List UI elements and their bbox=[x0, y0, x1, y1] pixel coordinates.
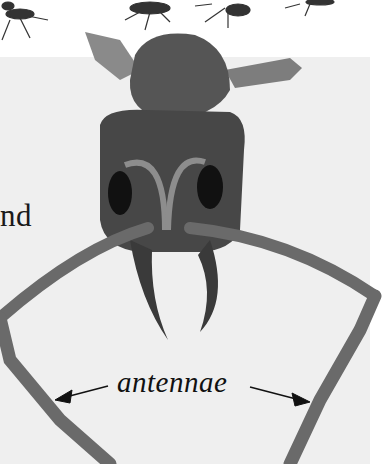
right-mandible bbox=[198, 240, 218, 332]
antennae-label: antennae bbox=[117, 366, 227, 399]
antennae bbox=[0, 228, 375, 464]
partial-body-text: nd bbox=[0, 198, 32, 234]
right-eye bbox=[197, 165, 223, 209]
small-ants bbox=[2, 0, 334, 40]
thorax bbox=[130, 34, 230, 120]
right-appendage bbox=[225, 58, 302, 88]
left-eye bbox=[108, 171, 132, 215]
left-mandible bbox=[130, 240, 168, 340]
